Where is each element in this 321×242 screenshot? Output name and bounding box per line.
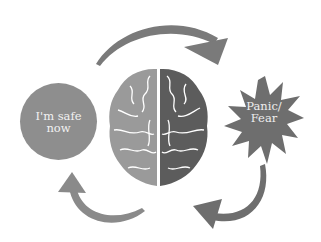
safe-label-line1: I'm safe <box>35 110 81 122</box>
arrow-bl-head <box>58 172 86 193</box>
safe-label: I'm safe now <box>35 110 81 134</box>
arrow-safe-to-panic <box>96 25 228 66</box>
arrow-br-body <box>212 164 266 221</box>
arrow-bl-body <box>70 190 145 223</box>
arrow-panic-to-brain <box>193 164 266 229</box>
brain-right-hemisphere <box>160 69 208 186</box>
safe-circle-node: I'm safe now <box>20 83 97 160</box>
panic-label-line2: Fear <box>232 112 296 124</box>
brain-icon <box>109 69 207 186</box>
cycle-diagram: I'm safe now Panic/ Fear <box>0 0 321 242</box>
arrow-brain-to-safe <box>58 172 145 223</box>
panic-label: Panic/ Fear <box>232 100 296 124</box>
arrow-top-head <box>184 38 228 65</box>
safe-label-line2: now <box>35 122 81 134</box>
